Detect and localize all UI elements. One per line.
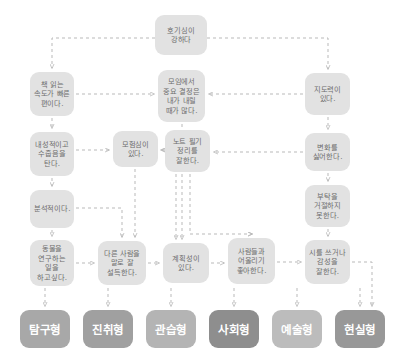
connector-note-to-sociable [190,174,252,234]
trait-node-curiosity: 호기심이 강하다 [155,15,207,55]
trait-node-label: 시를 쓰거나 감성을 잘한다. [308,248,347,277]
category-label: 현실형 [344,321,376,337]
connector-poetry-to-realistic [352,262,372,306]
category-conventional[interactable]: 관습형 [146,310,196,348]
trait-node-reading-speed: 책 읽는 속도가 빠른 편이다. [30,72,74,116]
trait-node-note-taking: 노트 필기 정리를 잘한다. [165,130,210,172]
trait-node-adventurous: 모험심이 있다. [113,131,158,167]
category-label: 관습형 [155,321,187,337]
trait-node-leadership: 지도력이 있다. [305,73,350,115]
category-enterprising[interactable]: 진취형 [83,310,133,348]
trait-node-label: 분석적이다. [34,204,71,214]
category-social[interactable]: 사회형 [209,310,259,348]
trait-node-persuade: 다른 사람을 말로 잘 설득한다. [98,241,146,285]
career-type-flowchart: 호기심이 강하다책 읽는 속도가 빠른 편이다.내성적이고 수줍음을 탄다.분석… [0,0,400,361]
trait-node-label: 책 읽는 속도가 빠른 편이다. [33,80,71,109]
trait-node-label: 다른 사람을 말로 잘 설득한다. [101,249,143,278]
trait-node-label: 노트 필기 정리를 잘한다. [168,137,207,166]
trait-node-label: 호기심이 강하다 [158,26,204,45]
trait-node-label: 모임에서 중요 결정은 내가 내릴 때가 많다. [161,77,202,115]
trait-node-label: 사람들과 어울리기 좋아한다. [231,247,272,276]
category-label: 사회형 [218,321,250,337]
trait-node-planning: 계획성이 있다. [163,243,209,283]
category-realistic[interactable]: 현실형 [335,310,385,348]
connector-analytical-to-persuade [76,208,122,237]
category-label: 탐구형 [29,321,61,337]
connector-curiosity-to-reading [52,38,155,68]
category-investigative[interactable]: 탐구형 [20,310,70,348]
category-label: 예술형 [281,321,313,337]
trait-node-group-decision: 모임에서 중요 결정은 내가 내릴 때가 많다. [158,70,205,122]
connector-curiosity-to-leadership [207,38,328,69]
trait-node-label: 모험심이 있다. [116,140,155,159]
trait-node-label: 변화를 싫어한다. [308,143,347,162]
trait-node-animal-research: 동물을 연구하는 일을 하고싶다. [30,240,74,286]
trait-node-dislike-change: 변화를 싫어한다. [305,133,350,171]
trait-node-analytical: 분석적이다. [30,190,74,228]
category-artistic[interactable]: 예술형 [272,310,322,348]
trait-node-label: 부탁을 거절하지 못한다. [308,192,347,221]
trait-node-label: 동물을 연구하는 일을 하고싶다. [33,244,71,282]
trait-node-sociable: 사람들과 어울리기 좋아한다. [228,238,275,284]
trait-node-poetry: 시를 쓰거나 감성을 잘한다. [305,240,350,284]
trait-node-label: 지도력이 있다. [308,85,347,104]
trait-node-label: 내성적이고 수줍음을 탄다. [33,140,71,169]
trait-node-cannot-refuse: 부탁을 거절하지 못한다. [305,185,350,227]
trait-node-introverted: 내성적이고 수줍음을 탄다. [30,132,74,176]
category-label: 진취형 [92,321,124,337]
trait-node-label: 계획성이 있다. [166,254,206,273]
